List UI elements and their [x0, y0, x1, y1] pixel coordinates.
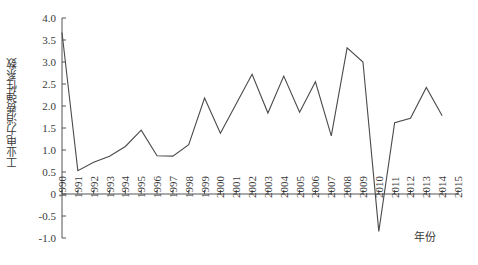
- x-tick-label: 1997: [167, 176, 179, 199]
- x-tick-label: 2014: [436, 176, 448, 199]
- x-axis: 1990199119921993199419951996199719981999…: [56, 176, 464, 199]
- x-tick-label: 1996: [151, 176, 163, 199]
- x-tick-label: 1992: [88, 176, 100, 198]
- x-tick-label: 1998: [183, 176, 195, 199]
- y-tick-label: -1.0: [39, 232, 57, 244]
- x-tick-label: 2005: [294, 176, 306, 199]
- x-tick-label: 2008: [341, 176, 353, 199]
- y-tick-label: 1.0: [42, 144, 56, 156]
- y-tick-label: 3.0: [42, 56, 56, 68]
- x-tick-label: 1993: [104, 176, 116, 199]
- y-tick-label: 2.0: [42, 100, 56, 112]
- x-tick-label: 2015: [452, 176, 464, 199]
- y-tick-label: 2.5: [42, 78, 56, 90]
- data-line: [62, 33, 442, 232]
- x-tick-label: 1991: [72, 176, 84, 198]
- x-tick-label: 1999: [199, 176, 211, 199]
- x-tick-label: 2009: [357, 176, 369, 199]
- y-axis: 4.03.53.02.52.01.51.00.50-0.5-1.0: [39, 12, 66, 244]
- y-tick-label: 3.5: [42, 34, 56, 46]
- x-tick-label: 2011: [389, 176, 401, 198]
- y-tick-label: 0.5: [42, 166, 56, 178]
- chart-container: 工业电力消费弹性系数 年份 4.03.53.02.52.01.51.00.50-…: [0, 0, 478, 265]
- x-tick-label: 2002: [246, 176, 258, 198]
- x-tick-label: 2003: [262, 176, 274, 199]
- y-tick-label: -0.5: [39, 210, 57, 222]
- x-tick-label: 2006: [309, 176, 321, 199]
- x-tick-label: 1995: [135, 176, 147, 199]
- x-tick-label: 2012: [404, 176, 416, 198]
- y-tick-label: 1.5: [42, 122, 56, 134]
- x-tick-label: 1990: [56, 176, 68, 199]
- x-tick-label: 2000: [214, 176, 226, 199]
- x-tick-label: 2013: [420, 176, 432, 199]
- y-tick-label: 4.0: [42, 12, 56, 24]
- x-tick-label: 2007: [325, 176, 337, 199]
- data-series-group: [62, 33, 442, 232]
- x-tick-label: 1994: [119, 176, 131, 199]
- line-chart-svg: 4.03.53.02.52.01.51.00.50-0.5-1.0 199019…: [0, 0, 478, 265]
- x-tick-label: 2001: [230, 176, 242, 198]
- x-tick-label: 2004: [278, 176, 290, 199]
